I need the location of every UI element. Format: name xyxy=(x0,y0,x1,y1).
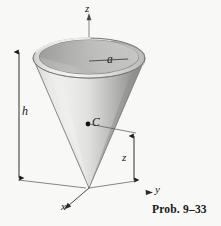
centroid-label-c: C xyxy=(92,117,100,129)
axis-y xyxy=(89,188,153,195)
figure-caption: Prob. 9–33 xyxy=(152,203,207,215)
cone-interior xyxy=(39,40,139,75)
radius-label-a: a xyxy=(107,54,113,66)
axis-y-label: y xyxy=(155,184,160,195)
axis-y-arrowhead xyxy=(146,190,153,195)
height-label-h: h xyxy=(22,105,28,117)
axis-x xyxy=(64,188,89,209)
cone-diagram-canvas xyxy=(0,0,221,226)
base-reference-line xyxy=(89,181,136,188)
axis-x-label: x xyxy=(61,201,66,212)
axis-z-label: z xyxy=(85,3,89,14)
problem-figure: z a h C z y x Prob. 9–33 xyxy=(0,0,221,226)
centroid-height-label-z: z xyxy=(122,152,126,163)
axis-z-arrowhead xyxy=(87,13,92,20)
